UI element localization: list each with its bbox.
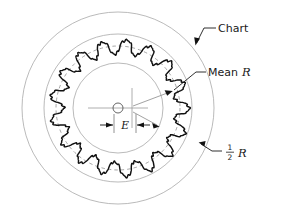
half-r-denominator: 2 <box>228 153 233 162</box>
mean-r-label-symbol: R <box>241 65 251 79</box>
half-r-numerator: 1 <box>228 143 233 152</box>
roundness-chart-figure: E Chart Mean R 1 2 R <box>0 0 286 216</box>
mean-r-label-prefix: Mean <box>208 66 238 79</box>
eccentricity-label: E <box>120 119 129 131</box>
chart-label: Chart <box>218 22 249 35</box>
half-r-label-symbol: R <box>237 146 247 160</box>
